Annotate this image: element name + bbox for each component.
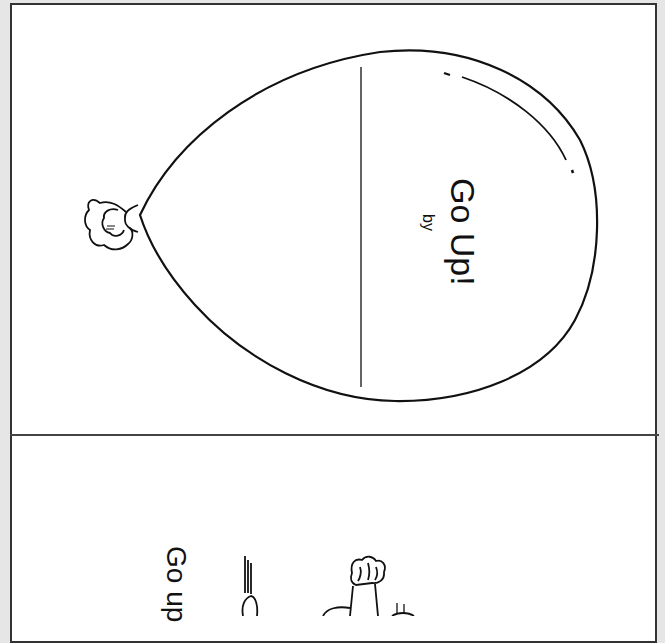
page-caption: Go up: [160, 546, 192, 622]
cover-byline: by: [419, 214, 437, 231]
hands-cartoon-icon: [242, 556, 414, 616]
balloon-icon: [140, 50, 597, 401]
balloon-knot-icon: [85, 200, 138, 250]
cover-title: Go Up!: [443, 178, 482, 286]
